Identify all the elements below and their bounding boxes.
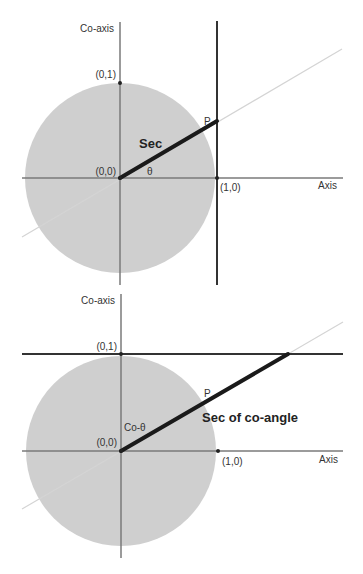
axis-label: Axis bbox=[318, 180, 337, 191]
origin-point bbox=[118, 176, 122, 180]
diagram-canvas: Co-axis Axis (0,1) (0,0) (1,0) P Sec θ C… bbox=[0, 0, 363, 574]
point-1-0 bbox=[215, 176, 219, 180]
secant-label: Sec bbox=[139, 136, 162, 151]
point-0-1 bbox=[118, 81, 122, 85]
point-0-1-label: (0,1) bbox=[95, 69, 116, 80]
co-secant-label: Sec of co-angle bbox=[202, 410, 298, 425]
diagram-secant-co-angle: Co-axis Axis (0,1) (0,0) (1,0) P Sec of … bbox=[22, 294, 343, 558]
point-p-label: P bbox=[204, 388, 211, 399]
point-1-0-label: (1,0) bbox=[220, 182, 241, 193]
co-theta-label: Co-θ bbox=[124, 422, 146, 433]
point-0-1-label: (0,1) bbox=[96, 341, 117, 352]
theta-label: θ bbox=[147, 166, 153, 177]
origin-label: (0,0) bbox=[96, 437, 117, 448]
point-p-label: P bbox=[204, 116, 211, 127]
coaxis-label: Co-axis bbox=[81, 295, 115, 306]
axis-label: Axis bbox=[319, 454, 338, 465]
coaxis-label: Co-axis bbox=[80, 23, 114, 34]
diagram-secant: Co-axis Axis (0,1) (0,0) (1,0) P Sec θ bbox=[22, 21, 343, 285]
point-1-0 bbox=[216, 449, 220, 453]
origin-label: (0,0) bbox=[95, 166, 116, 177]
point-1-0-label: (1,0) bbox=[222, 456, 243, 467]
point-0-1 bbox=[119, 352, 123, 356]
origin-point bbox=[119, 449, 123, 453]
